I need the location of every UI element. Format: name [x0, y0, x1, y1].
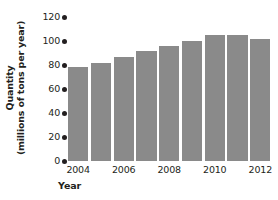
y-axis-title-line-1: Quantity	[4, 20, 15, 154]
x-axis-tick-label: 2008	[147, 164, 191, 176]
bar	[159, 46, 179, 161]
y-axis-tick-dot-icon	[62, 63, 67, 68]
y-axis-tick-label: 100	[26, 35, 60, 47]
y-axis-tick-label: 0	[26, 155, 60, 167]
y-axis-tick-label: 20	[26, 131, 60, 143]
y-axis-tick-dot-icon	[62, 39, 67, 44]
bar	[114, 57, 134, 161]
bar	[205, 35, 225, 161]
bar-chart: Quantity (millions of tons per year) Yea…	[0, 0, 278, 200]
y-axis-tick-label: 80	[26, 59, 60, 71]
x-axis-tick-label: 2010	[193, 164, 237, 176]
y-axis-title-line-2: (millions of tons per year)	[15, 20, 26, 154]
y-axis-tick-label: 40	[26, 107, 60, 119]
bar	[136, 51, 156, 161]
y-axis-tick-dot-icon	[62, 135, 67, 140]
y-axis-tick-label: 120	[26, 11, 60, 23]
bar	[182, 41, 202, 161]
bar	[68, 67, 88, 161]
y-axis-tick-dot-icon	[62, 87, 67, 92]
y-axis-tick-label: 60	[26, 83, 60, 95]
plot-area	[68, 17, 273, 161]
x-axis-tick-label: 2004	[56, 164, 100, 176]
bar	[227, 35, 247, 161]
x-axis-tick-label: 2006	[102, 164, 146, 176]
bar	[91, 63, 111, 161]
y-axis-tick-dot-icon	[62, 15, 67, 20]
y-axis-tick-dot-icon	[62, 159, 67, 164]
y-axis-tick-dot-icon	[62, 111, 67, 116]
x-axis-tick-label: 2012	[238, 164, 278, 176]
x-axis-title: Year	[58, 180, 81, 192]
bar	[250, 39, 270, 161]
